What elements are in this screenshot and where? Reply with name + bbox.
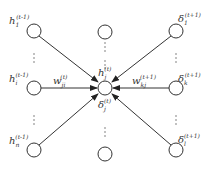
label-h1: h1(t-1): [9, 13, 30, 28]
node-d1: [169, 24, 183, 38]
label-d1: δ1(t+1): [178, 11, 201, 26]
edge-h1-to-center: [39, 36, 98, 82]
node-dl: [169, 143, 183, 157]
node-top-center: [98, 25, 112, 39]
label-hn: hn(t-1): [9, 133, 29, 148]
node-hi: [27, 81, 41, 95]
label-wkj: wkj(t+1): [132, 73, 157, 89]
label-dk: δk(t+1): [178, 71, 201, 86]
label-wji: wji(t): [53, 73, 68, 89]
label-dl: δl(t+1): [178, 132, 201, 147]
label-hi: hi(t-1): [9, 71, 29, 86]
node-hn: [27, 143, 41, 157]
edge-dl-to-center: [112, 94, 171, 145]
label-delta-j: δj(t): [98, 97, 112, 113]
label-hj: hj(t): [98, 65, 112, 81]
backprop-diagram: h1(t-1) hi(t-1) hn(t-1) wji(t) hj(t) δj(…: [0, 0, 210, 173]
node-h1: [27, 24, 41, 38]
node-center-hj: [98, 81, 112, 95]
edge-hn-to-center: [39, 94, 98, 145]
node-bottom-center: [98, 147, 112, 161]
